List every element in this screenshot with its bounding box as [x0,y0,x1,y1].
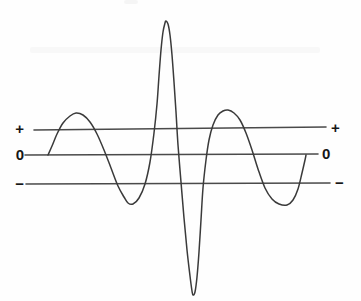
left-zero-label: 0 [6,147,24,162]
waveform-figure: + 0 − + 0 − [0,0,361,301]
right-minus-label: − [335,175,357,190]
right-zero-label: 0 [322,146,344,161]
left-minus-label: − [6,176,24,191]
plus-level-line [34,127,326,130]
left-plus-label: + [6,121,24,136]
right-plus-label: + [331,120,353,135]
waveform-svg [0,0,361,301]
zero-level-line [25,154,318,155]
minus-level-line [26,183,330,184]
waveform-curve [48,21,306,295]
